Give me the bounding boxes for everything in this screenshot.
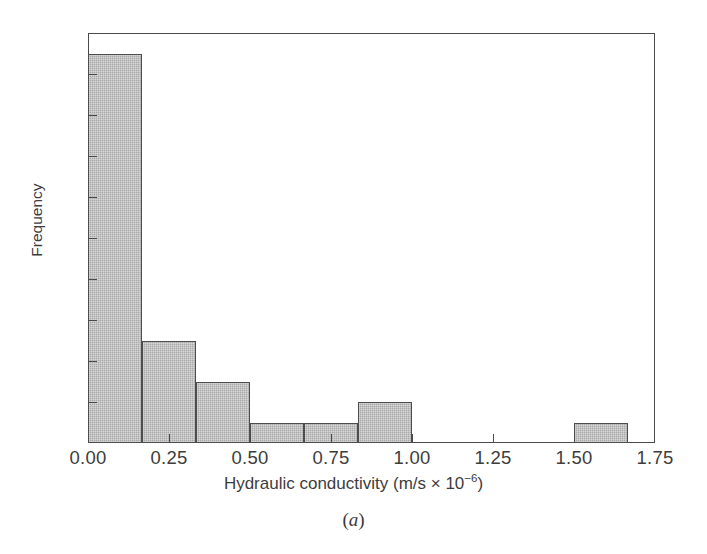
x-axis-tick-label: 0.75: [296, 447, 366, 469]
x-axis-label: Hydraulic conductivity (m/s × 10−6): [0, 474, 707, 494]
y-axis-tick: [88, 361, 97, 362]
histogram-figure: 02468101214161820 0.000.250.500.751.001.…: [0, 0, 707, 554]
caption-letter: a: [349, 509, 359, 530]
y-axis-tick: [88, 115, 97, 116]
histogram-bar: [358, 402, 412, 443]
histogram-bar: [196, 382, 250, 444]
y-axis-tick: [88, 279, 97, 280]
x-axis-tick: [493, 434, 494, 443]
y-axis-tick: [88, 197, 97, 198]
x-axis-tick: [412, 434, 413, 443]
histogram-bar: [574, 423, 628, 444]
x-axis-tick: [169, 434, 170, 443]
bars-layer: [88, 33, 655, 443]
y-axis-tick: [88, 74, 97, 75]
x-axis-tick-label: 1.75: [620, 447, 690, 469]
y-axis-tick: [88, 238, 97, 239]
histogram-bar: [88, 54, 142, 444]
x-axis-label-exponent: −6: [464, 472, 477, 484]
x-axis-tick-label: 0.00: [53, 447, 123, 469]
histogram-bar: [250, 423, 304, 444]
x-axis-tick: [574, 434, 575, 443]
y-axis-label: Frequency: [28, 120, 46, 320]
histogram-bar: [142, 341, 196, 444]
x-axis-tick: [250, 434, 251, 443]
x-axis-tick: [331, 434, 332, 443]
figure-caption: (a): [0, 509, 707, 531]
x-axis-label-tail: ): [477, 474, 483, 493]
y-axis-tick: [88, 156, 97, 157]
x-axis-label-main: Hydraulic conductivity (m/s × 10: [224, 474, 464, 493]
x-axis-tick-label: 0.25: [134, 447, 204, 469]
x-axis-tick-label: 1.00: [377, 447, 447, 469]
caption-close-paren: ): [358, 509, 364, 530]
x-axis-tick-label: 1.50: [539, 447, 609, 469]
x-axis-tick-label: 0.50: [215, 447, 285, 469]
y-axis-tick: [88, 320, 97, 321]
x-axis-tick-label: 1.25: [458, 447, 528, 469]
y-axis-tick: [88, 402, 97, 403]
